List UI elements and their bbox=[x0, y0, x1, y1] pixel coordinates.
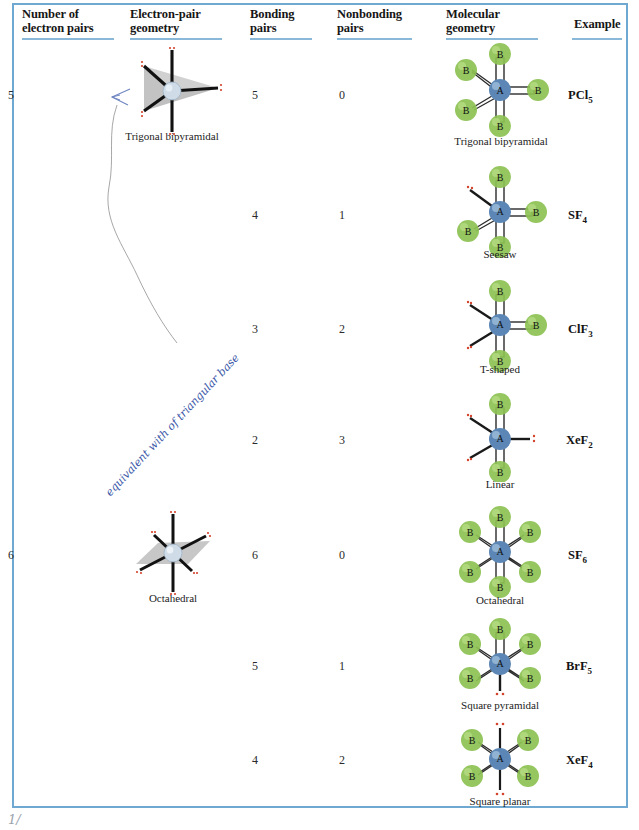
example-subscript: 4 bbox=[588, 760, 593, 770]
cell-electron-pairs-row-5: 6 bbox=[8, 548, 14, 563]
caption-molecular-geometry-row-3: T-shaped bbox=[452, 363, 548, 375]
svg-text:B: B bbox=[467, 639, 474, 650]
cell-nonbonding-pairs-row-1: 0 bbox=[339, 88, 345, 103]
caption-molecular-geometry-row-5: Octahedral bbox=[455, 594, 545, 606]
cell-nonbonding-pairs-row-4: 3 bbox=[339, 433, 345, 448]
cell-example-row-4: XeF2 bbox=[566, 433, 593, 450]
molecular-geometry-t-shaped: BBB A bbox=[446, 277, 556, 372]
svg-text:A: A bbox=[496, 319, 504, 330]
header-line-1: Example bbox=[574, 17, 621, 31]
cell-bonding-pairs-row-6: 5 bbox=[252, 659, 258, 674]
header-rule-example bbox=[572, 38, 622, 40]
caption-molecular-geometry-row-7: Square planar bbox=[451, 795, 549, 807]
example-subscript: 5 bbox=[588, 95, 593, 105]
svg-text:B: B bbox=[469, 771, 476, 782]
svg-text:B: B bbox=[497, 286, 504, 297]
example-subscript: 5 bbox=[588, 666, 593, 676]
cell-example-row-1: PCl5 bbox=[568, 88, 593, 105]
header-line-1: Molecular bbox=[446, 7, 500, 21]
molecular-geometry-octahedral: BB BB BB A bbox=[446, 503, 556, 598]
cell-nonbonding-pairs-row-7: 2 bbox=[339, 753, 345, 768]
cell-bonding-pairs-row-7: 4 bbox=[252, 753, 258, 768]
column-header-molecular-geometry: Molecular geometry bbox=[446, 7, 500, 35]
header-rule-bonding-pairs bbox=[250, 38, 312, 40]
svg-text:B: B bbox=[463, 65, 470, 76]
svg-text:B: B bbox=[463, 105, 470, 116]
column-header-nonbonding-pairs: Nonbonding pairs bbox=[337, 7, 402, 35]
svg-text:B: B bbox=[469, 735, 476, 746]
svg-text:B: B bbox=[497, 467, 504, 478]
svg-text:B: B bbox=[535, 85, 542, 96]
cell-electron-pairs-row-1: 5 bbox=[8, 88, 14, 103]
cell-example-row-2: SF4 bbox=[568, 208, 587, 225]
svg-text:A: A bbox=[496, 546, 504, 557]
example-formula: ClF bbox=[568, 322, 588, 336]
svg-text:B: B bbox=[527, 673, 534, 684]
cell-bonding-pairs-row-1: 5 bbox=[252, 88, 258, 103]
svg-text:B: B bbox=[497, 49, 504, 60]
example-subscript: 2 bbox=[588, 440, 593, 450]
svg-text:B: B bbox=[527, 527, 534, 538]
svg-text:B: B bbox=[467, 567, 474, 578]
cell-example-row-3: ClF3 bbox=[568, 322, 593, 339]
svg-text:B: B bbox=[497, 624, 504, 635]
example-formula: BrF bbox=[566, 659, 588, 673]
molecular-geometry-seesaw: BBBB A bbox=[446, 163, 556, 258]
svg-text:B: B bbox=[525, 735, 532, 746]
cell-bonding-pairs-row-5: 6 bbox=[252, 548, 258, 563]
svg-text:B: B bbox=[497, 512, 504, 523]
molecular-geometry-square-planar: BB BB A bbox=[446, 718, 556, 800]
example-subscript: 3 bbox=[588, 329, 593, 339]
table-header: Number of electron pairs Electron-pair g… bbox=[0, 0, 639, 42]
header-line-2: pairs bbox=[337, 21, 402, 35]
header-line-2: geometry bbox=[130, 21, 201, 35]
cell-bonding-pairs-row-4: 2 bbox=[252, 433, 258, 448]
svg-text:B: B bbox=[497, 121, 504, 132]
svg-text:A: A bbox=[496, 658, 504, 669]
svg-text:B: B bbox=[533, 207, 540, 218]
cell-bonding-pairs-row-3: 3 bbox=[252, 322, 258, 337]
example-formula: PCl bbox=[568, 88, 588, 102]
svg-text:A: A bbox=[496, 433, 504, 444]
column-header-electron-pair-geometry: Electron-pair geometry bbox=[130, 7, 201, 35]
caption-molecular-geometry-row-2: Seesaw bbox=[455, 248, 545, 260]
example-formula: XeF bbox=[566, 433, 588, 447]
example-formula: XeF bbox=[566, 753, 588, 767]
header-rule-electron-pairs bbox=[22, 38, 114, 40]
molecular-geometry-trigonal-bipyramidal: BBB BB A bbox=[446, 40, 556, 140]
header-rule-nonbonding-pairs bbox=[337, 38, 412, 40]
caption-molecular-geometry-row-4: Linear bbox=[460, 478, 540, 490]
header-line-2: geometry bbox=[446, 21, 500, 35]
pencil-curve-annotation bbox=[85, 95, 205, 399]
svg-text:A: A bbox=[496, 206, 504, 217]
cell-nonbonding-pairs-row-6: 1 bbox=[339, 659, 345, 674]
svg-text:B: B bbox=[467, 527, 474, 538]
electron-pair-geometry-octahedral bbox=[118, 508, 228, 598]
svg-text:B: B bbox=[465, 226, 472, 237]
molecular-geometry-linear: BBA bbox=[446, 390, 556, 482]
header-line-1: Electron-pair bbox=[130, 7, 201, 21]
corner-mark: 1/ bbox=[8, 812, 21, 827]
column-header-example: Example bbox=[574, 17, 621, 31]
cell-example-row-6: BrF5 bbox=[566, 659, 592, 676]
svg-text:A: A bbox=[496, 85, 504, 96]
cell-nonbonding-pairs-row-5: 0 bbox=[339, 548, 345, 563]
svg-text:A: A bbox=[496, 753, 504, 764]
svg-text:B: B bbox=[533, 320, 540, 331]
header-rule-electron-pair-geometry bbox=[130, 38, 222, 40]
pencil-arrowhead bbox=[104, 85, 134, 111]
example-formula: SF bbox=[568, 548, 583, 562]
example-subscript: 6 bbox=[583, 555, 588, 565]
svg-text:B: B bbox=[497, 582, 504, 593]
svg-text:B: B bbox=[467, 673, 474, 684]
molecular-geometry-square-pyramidal: B BB BB A bbox=[446, 615, 556, 705]
header-line-2: electron pairs bbox=[22, 21, 94, 35]
svg-text:B: B bbox=[527, 639, 534, 650]
header-line-1: Bonding bbox=[250, 7, 294, 21]
svg-text:B: B bbox=[497, 172, 504, 183]
cell-example-row-7: XeF4 bbox=[566, 753, 593, 770]
svg-text:B: B bbox=[525, 771, 532, 782]
column-header-electron-pairs: Number of electron pairs bbox=[22, 7, 94, 35]
example-formula: SF bbox=[568, 208, 583, 222]
cell-nonbonding-pairs-row-2: 1 bbox=[339, 208, 345, 223]
